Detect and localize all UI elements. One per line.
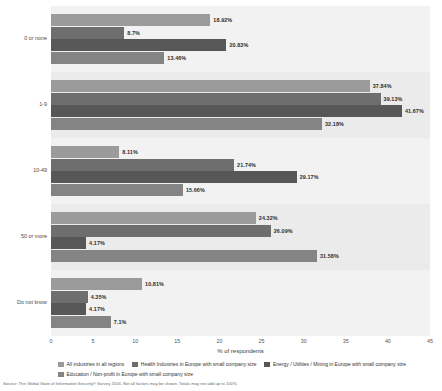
legend: All industries in all regionsHealth Indu… — [58, 361, 438, 377]
bar[interactable]: 4.17% — [51, 303, 86, 315]
x-axis-tick-label: 5 — [92, 338, 95, 344]
bar-value-label: 4.17% — [89, 306, 105, 312]
bar[interactable]: 18.92% — [51, 14, 210, 26]
bar-value-label: 29.17% — [300, 174, 319, 180]
gridline — [430, 6, 431, 336]
x-axis-tick-label: 45 — [427, 338, 433, 344]
bar-value-label: 15.66% — [186, 187, 205, 193]
x-axis-tick-label: 10 — [132, 338, 138, 344]
bar-value-label: 24.32% — [259, 215, 278, 221]
bar-group: 37.84%39.13%41.67%32.18% — [51, 72, 430, 138]
bar-row: 18.92% — [51, 14, 210, 26]
bar-value-label: 8.7% — [127, 30, 140, 36]
bar-value-label: 26.09% — [274, 228, 293, 234]
bar[interactable]: 26.09% — [51, 225, 271, 237]
legend-label: Energy / Utilities / Mining in Europe wi… — [273, 361, 406, 367]
bar[interactable]: 13.46% — [51, 52, 164, 64]
bar-row: 31.58% — [51, 250, 317, 262]
bar-value-label: 41.67% — [405, 108, 424, 114]
bar-row: 7.1% — [51, 316, 111, 328]
legend-swatch-icon — [132, 362, 138, 367]
legend-item[interactable]: All industries in all regions — [58, 361, 124, 367]
bar-row: 20.83% — [51, 39, 226, 51]
bar-group: 8.11%21.74%29.17%15.66% — [51, 138, 430, 204]
bar[interactable]: 4.35% — [51, 291, 88, 303]
bar-row: 8.7% — [51, 27, 124, 39]
bar[interactable]: 32.18% — [51, 118, 322, 130]
y-axis-category-label: 1-9 — [39, 101, 47, 107]
y-axis-category-label: 50 or more — [21, 233, 47, 239]
bar[interactable]: 7.1% — [51, 316, 111, 328]
bar-group: 18.92%8.7%20.83%13.46% — [51, 6, 430, 72]
bar-value-label: 4.17% — [89, 240, 105, 246]
legend-items: All industries in all regionsHealth Indu… — [58, 361, 438, 377]
y-axis-category-labels: 0 or none1-910-4950 or moreDo not know — [0, 6, 47, 336]
x-axis-tick-label: 0 — [50, 338, 53, 344]
y-axis-category-label: 10-49 — [33, 167, 47, 173]
bar-group: 24.32%26.09%4.17%31.58% — [51, 204, 430, 270]
legend-label: Health Industries in Europe with small c… — [141, 361, 257, 367]
legend-swatch-icon — [264, 362, 270, 367]
bar-value-label: 13.46% — [167, 55, 186, 61]
bar[interactable]: 31.58% — [51, 250, 317, 262]
bar-row: 24.32% — [51, 212, 256, 224]
bar-group: 10.81%4.35%4.17%7.1% — [51, 270, 430, 336]
legend-swatch-icon — [58, 372, 64, 377]
x-axis-title: % of respondents — [51, 348, 430, 354]
legend-item[interactable]: Education / Non-profit in Europe with sm… — [58, 371, 193, 377]
bar[interactable]: 39.13% — [51, 93, 381, 105]
bar[interactable]: 20.83% — [51, 39, 226, 51]
plot-area: 18.92%8.7%20.83%13.46%37.84%39.13%41.67%… — [51, 6, 430, 336]
chart-container: 0 or none1-910-4950 or moreDo not know 1… — [0, 0, 442, 391]
y-axis-category-label: Do not know — [17, 299, 47, 305]
bar-row: 21.74% — [51, 159, 234, 171]
x-axis-tick-label: 35 — [343, 338, 349, 344]
y-axis-category-label: 0 or none — [24, 35, 47, 41]
bar-group-inner: 8.11%21.74%29.17%15.66% — [51, 138, 430, 204]
legend-item[interactable]: Health Industries in Europe with small c… — [132, 361, 256, 367]
bar[interactable]: 10.81% — [51, 278, 142, 290]
bar[interactable]: 21.74% — [51, 159, 234, 171]
bar-value-label: 31.58% — [320, 253, 339, 259]
x-axis-tick-label: 30 — [301, 338, 307, 344]
bar-row: 13.46% — [51, 52, 164, 64]
bar-row: 26.09% — [51, 225, 271, 237]
bar-group-inner: 37.84%39.13%41.67%32.18% — [51, 72, 430, 138]
bar-row: 10.81% — [51, 278, 142, 290]
bar-value-label: 20.83% — [229, 42, 248, 48]
bar-row: 32.18% — [51, 118, 322, 130]
bar-value-label: 7.1% — [114, 319, 127, 325]
bar-row: 29.17% — [51, 171, 297, 183]
bar-value-label: 10.81% — [145, 281, 164, 287]
bar-value-label: 8.11% — [122, 149, 138, 155]
legend-swatch-icon — [58, 362, 64, 367]
bar-row: 4.17% — [51, 237, 86, 249]
bar[interactable]: 29.17% — [51, 171, 297, 183]
bar-value-label: 18.92% — [213, 17, 232, 23]
x-axis-tick-label: 40 — [385, 338, 391, 344]
bar-value-label: 4.35% — [91, 294, 107, 300]
bar-value-label: 21.74% — [237, 162, 256, 168]
bar-row: 37.84% — [51, 80, 370, 92]
x-axis-tick-label: 25 — [259, 338, 265, 344]
legend-label: Education / Non-profit in Europe with sm… — [67, 371, 193, 377]
bar-row: 4.17% — [51, 303, 86, 315]
bar[interactable]: 8.11% — [51, 146, 119, 158]
bar[interactable]: 41.67% — [51, 105, 402, 117]
bar-row: 15.66% — [51, 184, 183, 196]
bar-group-inner: 24.32%26.09%4.17%31.58% — [51, 204, 430, 270]
legend-label: All industries in all regions — [67, 361, 125, 367]
bar[interactable]: 4.17% — [51, 237, 86, 249]
legend-item[interactable]: Energy / Utilities / Mining in Europe wi… — [264, 361, 406, 367]
bar-value-label: 37.84% — [373, 83, 392, 89]
bar-row: 4.35% — [51, 291, 88, 303]
x-axis-tick-label: 15 — [174, 338, 180, 344]
bar[interactable]: 37.84% — [51, 80, 370, 92]
bar-group-inner: 10.81%4.35%4.17%7.1% — [51, 270, 430, 336]
bar[interactable]: 24.32% — [51, 212, 256, 224]
bar[interactable]: 8.7% — [51, 27, 124, 39]
bar-row: 41.67% — [51, 105, 402, 117]
bar-value-label: 32.18% — [325, 121, 344, 127]
source-note: Source: The Global State of Information … — [3, 381, 433, 386]
bar[interactable]: 15.66% — [51, 184, 183, 196]
